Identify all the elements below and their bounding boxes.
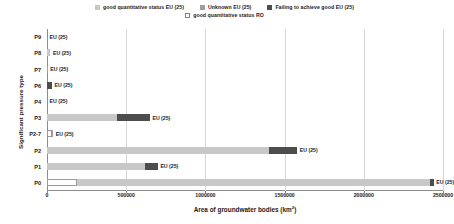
bar-segment-good-ro (47, 179, 77, 186)
bar-row: EU (25) (47, 163, 443, 170)
bar-row: EU (25) (47, 66, 443, 73)
x-axis-tick-labels: 05000001000000150000020000002500000 (0, 192, 449, 204)
gridline (443, 29, 444, 191)
bar-row: EU (25) (47, 179, 443, 186)
bar-segment (47, 163, 145, 170)
legend-item-good-eu: good quantitative status EU (25) (95, 5, 184, 10)
legend-item-failing-eu: Failing to achieve good EU (25) (267, 5, 354, 10)
x-axis-title: Area of groundwater bodies (km2) (47, 205, 443, 213)
stacked-bar (47, 49, 50, 56)
bar-row: EU (25) (47, 49, 443, 56)
bar-segment (47, 147, 269, 154)
legend-label: good quantitative status EU (25) (103, 5, 184, 10)
legend-row-primary: good quantitative status EU (25) Unknown… (0, 5, 449, 10)
bar-segment (47, 49, 50, 56)
legend-swatch-icon (267, 5, 272, 10)
y-axis-tick-label: P2 (34, 148, 41, 154)
stacked-bar (47, 82, 52, 89)
y-axis-tick-label: P9 (34, 34, 41, 40)
legend-label: Failing to achieve good EU (25) (275, 5, 354, 10)
bar-segment (47, 114, 117, 121)
bar-value-label: EU (25) (53, 50, 71, 56)
bar-value-label: EU (25) (50, 34, 68, 40)
bar-value-label: EU (25) (55, 82, 73, 88)
bar-segment (47, 82, 52, 89)
x-axis-tick-mark (285, 191, 286, 193)
bar-segment (117, 114, 150, 121)
y-axis-tick-label: P2-7 (29, 131, 41, 137)
bar-value-label: EU (25) (152, 115, 170, 121)
x-axis-tick-mark (47, 191, 48, 193)
x-axis-tick-mark (205, 191, 206, 193)
bar-segment (77, 179, 430, 186)
bar-segment (145, 163, 158, 170)
y-axis-tick-label: P6 (34, 83, 41, 89)
y-axis-tick-labels: P9P8P7P6P4P3P2-7P2P1P0 (0, 29, 45, 191)
stacked-bar (47, 130, 53, 137)
stacked-bar (47, 66, 48, 73)
legend-row-secondary: good quantitative status RO (0, 13, 449, 18)
bar-row: EU (25) (47, 98, 443, 105)
y-axis-tick-label: P1 (34, 164, 41, 170)
bar-row: EU (25) (47, 130, 443, 137)
legend-label: good quantitative status RO (193, 13, 264, 18)
y-axis-tick-label: P8 (34, 50, 41, 56)
bar-row: EU (25) (47, 147, 443, 154)
bar-value-label: EU (25) (160, 163, 178, 169)
stacked-bar (47, 163, 158, 170)
x-axis-tick-mark (443, 191, 444, 193)
legend-swatch-icon (95, 5, 100, 10)
x-axis-line (47, 190, 443, 191)
y-axis-tick-label: P0 (34, 180, 41, 186)
legend-swatch-icon (185, 13, 190, 18)
bar-value-label: EU (25) (50, 66, 68, 72)
x-axis-tick-mark (364, 191, 365, 193)
x-axis-tick-mark (126, 191, 127, 193)
stacked-bar (47, 179, 434, 186)
bar-row: EU (25) (47, 33, 443, 40)
bar-value-label: EU (25) (436, 179, 454, 185)
stacked-bar (47, 114, 150, 121)
y-axis-tick-label: P4 (34, 99, 41, 105)
stacked-bar (47, 147, 297, 154)
bar-row: EU (25) (47, 82, 443, 89)
bar-segment (430, 179, 433, 186)
y-axis-tick-label: P3 (34, 115, 41, 121)
legend-item-unknown-eu: Unknown EU (25) (200, 5, 251, 10)
plot-area: EU (25)EU (25)EU (25)EU (25)EU (25)EU (2… (47, 29, 443, 191)
bar-segment (52, 130, 53, 137)
chart-legend: good quantitative status EU (25) Unknown… (0, 5, 449, 18)
y-axis-tick-label: P7 (34, 67, 41, 73)
bar-row: EU (25) (47, 114, 443, 121)
bar-segment (269, 147, 298, 154)
legend-item-good-ro: good quantitative status RO (185, 13, 264, 18)
bar-value-label: EU (25) (50, 98, 68, 104)
legend-swatch-icon (200, 5, 205, 10)
bar-value-label: EU (25) (56, 131, 74, 137)
legend-label: Unknown EU (25) (208, 5, 251, 10)
bar-value-label: EU (25) (300, 147, 318, 153)
bar-segment (47, 66, 48, 73)
